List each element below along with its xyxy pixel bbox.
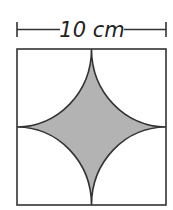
geometry-diagram: 10 cm [0,0,173,210]
dimension-label: 10 cm [59,18,124,42]
shaded-region [17,49,166,205]
